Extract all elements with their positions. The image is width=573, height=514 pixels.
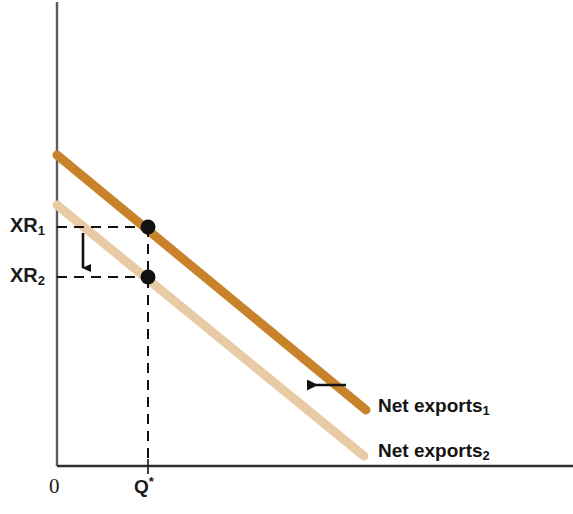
y-axis-label-xr1: XR1 xyxy=(10,215,45,235)
equilibrium-point-1 xyxy=(141,220,156,235)
chart-canvas xyxy=(0,0,573,514)
series-label-net-exports-2: Net exports2 xyxy=(378,441,490,460)
series-label-net-exports-1: Net exports1 xyxy=(378,396,490,415)
x-axis-label-q-star: Q* xyxy=(134,477,154,496)
origin-label: 0 xyxy=(49,476,60,497)
net-exports-shift-figure: XR1 XR2 0 Q* Net exports1 Net exports2 xyxy=(0,0,573,514)
y-axis-label-xr2: XR2 xyxy=(10,265,45,285)
net-exports-curve-1 xyxy=(57,155,366,410)
net-exports-curve-2 xyxy=(57,205,364,456)
equilibrium-point-2 xyxy=(141,270,156,285)
